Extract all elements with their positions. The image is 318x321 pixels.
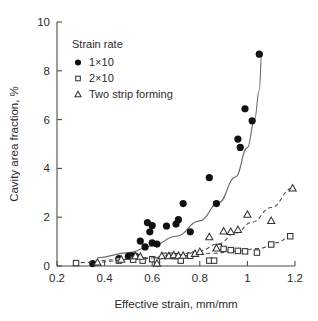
chart-plot-area: 0.20.40.60.811.20246810 Strain rate1×102… [0,0,318,321]
y-tick-label: 2 [44,211,50,223]
marker-open-square [76,76,81,81]
chart-legend: Strain rate1×102×10Two strip forming [72,38,173,100]
marker-open-square [254,250,259,255]
series-3 [94,185,296,267]
x-tick-label: 0.4 [97,272,114,284]
x-axis-title: Effective strain, mm/mm [114,298,237,310]
x-tick-label: 1.2 [287,272,303,284]
x-tick-label: 0.2 [49,272,65,284]
marker-open-square [73,260,78,265]
marker-filled-circle [241,105,248,112]
marker-open-triangle [289,185,296,191]
chart-figure: 0.20.40.60.811.20246810 Strain rate1×102… [0,0,318,321]
marker-filled-circle [256,51,263,58]
marker-filled-circle [137,238,144,245]
marker-open-triangle [244,211,251,217]
marker-filled-circle [146,228,153,235]
marker-filled-circle [249,117,256,124]
marker-filled-circle [206,174,213,181]
y-axis-title: Cavity area fraction, % [8,86,20,202]
marker-filled-circle [163,222,170,229]
marker-open-triangle [75,91,81,96]
y-tick-label: 4 [44,162,51,174]
y-tick-label: 8 [44,65,50,77]
y-tick-label: 6 [44,114,50,126]
marker-open-square [242,249,247,254]
y-tick-label: 0 [44,260,50,272]
series-fit-curve [95,188,293,262]
legend-entry-label: Two strip forming [89,88,173,100]
y-tick-label: 10 [37,16,50,28]
x-tick-label: 0.6 [144,272,160,284]
legend-entry-3[interactable]: Two strip forming [75,88,173,100]
marker-filled-circle [237,144,244,151]
marker-open-square [228,247,233,252]
marker-filled-circle [141,243,148,250]
marker-filled-circle [75,59,81,65]
axes: 0.20.40.60.811.20246810 [37,16,303,284]
marker-open-square [288,234,293,239]
marker-open-triangle [234,226,241,232]
x-tick-label: 1 [244,272,250,284]
x-tick-label: 0.8 [192,272,208,284]
marker-open-triangle [227,228,234,234]
marker-filled-circle [175,216,182,223]
marker-filled-circle [187,228,194,235]
legend-title: Strain rate [72,38,123,50]
marker-filled-circle [149,222,156,229]
marker-open-square [235,248,240,253]
marker-open-square [221,246,226,251]
legend-entry-2[interactable]: 2×10 [76,72,114,84]
marker-open-triangle [196,248,203,254]
legend-entry-label: 2×10 [89,72,114,84]
marker-filled-circle [213,200,220,207]
series-2 [73,234,293,266]
marker-open-square [211,258,216,263]
marker-filled-circle [153,240,160,247]
marker-open-square [269,242,274,247]
legend-entry-label: 1×10 [89,56,114,68]
marker-open-triangle [220,228,227,234]
marker-open-triangle [268,217,275,223]
marker-filled-circle [234,136,241,143]
series-1 [89,51,263,268]
marker-open-triangle [206,233,213,239]
marker-filled-circle [180,200,187,207]
legend-entry-1[interactable]: 1×10 [75,56,114,68]
